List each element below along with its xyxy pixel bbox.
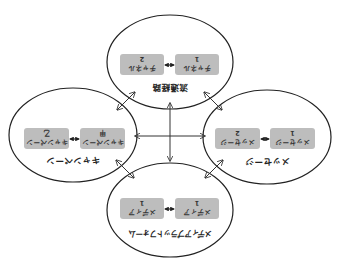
svg-text:キャンペーン: キャンペーン (26, 138, 68, 146)
media-title: メディアプラットフォーム (128, 229, 212, 239)
message-title: メッセージ (245, 157, 290, 167)
message-box-2: メッセージ 2 (215, 128, 260, 149)
svg-text:2: 2 (235, 129, 240, 137)
svg-text:1: 1 (290, 129, 295, 137)
channel-box-2: チャネル 2 (120, 54, 164, 75)
node-channel: 流通経路 チャネル 1 チャネル 2 (107, 15, 233, 109)
svg-text:キャンペーン: キャンペーン (82, 138, 124, 146)
media-box-2: メディア 1 (120, 198, 164, 219)
svg-text:メディア: メディア (183, 208, 211, 217)
connections (116, 92, 223, 178)
svg-text:メッセージ: メッセージ (275, 138, 310, 146)
node-campaign: キャンペーン キャンペーン 甲 キャンペーン 乙 (9, 88, 137, 182)
svg-text:チャネル: チャネル (183, 64, 211, 72)
arrow-channel-message (204, 92, 222, 110)
relationship-diagram: 流通経路 チャネル 1 チャネル 2 キャンペーン キャンペーン 甲 キャンペー… (0, 0, 337, 266)
svg-text:チャネル: チャネル (128, 64, 156, 72)
campaign-box-2: キャンペーン 乙 (24, 128, 69, 149)
message-box-1: メッセージ 1 (270, 128, 315, 149)
svg-text:乙: 乙 (43, 129, 50, 137)
campaign-box-1: キャンペーン 甲 (80, 128, 125, 149)
media-box-1: メディア 1 (175, 198, 219, 219)
campaign-title: キャンペーン (46, 156, 100, 166)
svg-text:甲: 甲 (99, 129, 106, 137)
node-media: メディアプラットフォーム メディア 1 メディア 1 (107, 163, 233, 257)
node-message: メッセージ メッセージ 1 メッセージ 2 (203, 90, 331, 184)
svg-text:1: 1 (139, 199, 144, 207)
channel-title: 流通経路 (152, 83, 188, 93)
arrow-channel-campaign (117, 92, 135, 110)
svg-text:メッセージ: メッセージ (220, 138, 255, 146)
channel-box-1: チャネル 1 (175, 54, 219, 75)
svg-text:1: 1 (194, 199, 199, 207)
svg-text:1: 1 (194, 55, 199, 63)
svg-text:メディア: メディア (128, 208, 156, 217)
svg-text:2: 2 (140, 55, 145, 63)
